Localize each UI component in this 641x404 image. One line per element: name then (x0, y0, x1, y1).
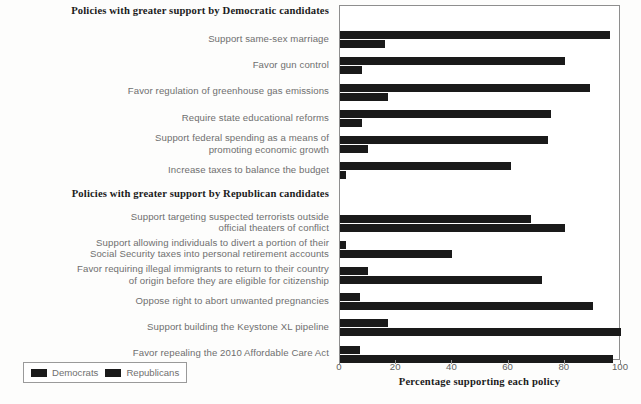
category-label-line: official theaters of conflict (9, 222, 329, 234)
category-label: Favor gun control (9, 59, 329, 71)
bars-container (340, 6, 619, 359)
category-label: Favor regulation of greenhouse gas emiss… (9, 85, 329, 97)
chart-legend: Democrats Republicans (23, 362, 187, 383)
x-axis-tick-label: 40 (431, 361, 471, 372)
category-label-line: Favor repealing the 2010 Affordable Care… (9, 347, 329, 359)
category-label-line: promoting economic growth (9, 144, 329, 156)
bar-republicans (340, 171, 346, 179)
x-axis-tick-label: 60 (488, 361, 528, 372)
bar-republicans (340, 250, 452, 258)
category-label: Support targeting suspected terrorists o… (9, 211, 329, 234)
category-label-line: Support allowing individuals to divert a… (9, 237, 329, 249)
legend-label-republicans: Republicans (126, 367, 179, 378)
bar-democrats (340, 162, 511, 170)
x-axis-tick-label: 80 (544, 361, 584, 372)
plot-area (339, 5, 620, 360)
x-axis-title: Percentage supporting each policy (339, 376, 620, 387)
bar-republicans (340, 302, 593, 310)
bar-democrats (340, 215, 531, 223)
x-axis-tick-label: 100 (600, 361, 640, 372)
bar-republicans (340, 328, 621, 336)
category-label-line: Favor gun control (9, 59, 329, 71)
x-axis-tick-label: 0 (319, 361, 359, 372)
legend-label-democrats: Democrats (52, 367, 98, 378)
category-label-line: Support building the Keystone XL pipelin… (9, 321, 329, 333)
section-header: Policies with greater support by Republi… (0, 188, 329, 200)
category-label-line: Support same-sex marriage (9, 33, 329, 45)
category-label-line: Oppose right to abort unwanted pregnanci… (9, 295, 329, 307)
bar-democrats (340, 31, 610, 39)
category-label: Require state educational reforms (9, 112, 329, 124)
category-label-line: Support targeting suspected terrorists o… (9, 211, 329, 223)
category-label: Support allowing individuals to divert a… (9, 237, 329, 260)
bar-democrats (340, 84, 590, 92)
category-label-line: Social Security taxes into personal reti… (9, 248, 329, 260)
category-label-line: Support federal spending as a means of (9, 132, 329, 144)
bar-republicans (340, 66, 362, 74)
bar-democrats (340, 110, 551, 118)
bar-chart-figure: Policies with greater support by Democra… (0, 0, 641, 404)
category-label: Support building the Keystone XL pipelin… (9, 321, 329, 333)
bar-democrats (340, 346, 360, 354)
category-label-line: of origin before they are eligible for c… (9, 275, 329, 287)
category-label: Support same-sex marriage (9, 33, 329, 45)
bar-republicans (340, 145, 368, 153)
section-header: Policies with greater support by Democra… (0, 5, 329, 17)
legend-item-republicans: Republicans (105, 367, 179, 378)
category-label: Oppose right to abort unwanted pregnanci… (9, 295, 329, 307)
category-label: Favor requiring illegal immigrants to re… (9, 263, 329, 286)
bar-republicans (340, 93, 388, 101)
category-label-line: Require state educational reforms (9, 112, 329, 124)
bar-democrats (340, 57, 565, 65)
bar-republicans (340, 276, 542, 284)
bar-democrats (340, 319, 388, 327)
category-label: Support federal spending as a means ofpr… (9, 132, 329, 155)
bar-democrats (340, 293, 360, 301)
bar-democrats (340, 241, 346, 249)
x-axis-tick-label: 20 (375, 361, 415, 372)
category-label-line: Favor requiring illegal immigrants to re… (9, 263, 329, 275)
category-label-column: Policies with greater support by Democra… (0, 0, 334, 360)
bar-republicans (340, 119, 362, 127)
bar-republicans (340, 224, 565, 232)
category-label-line: Increase taxes to balance the budget (9, 164, 329, 176)
bar-republicans (340, 40, 385, 48)
bar-democrats (340, 136, 548, 144)
legend-swatch-republicans-icon (105, 369, 121, 377)
category-label: Favor repealing the 2010 Affordable Care… (9, 347, 329, 359)
category-label: Increase taxes to balance the budget (9, 164, 329, 176)
legend-swatch-democrats-icon (31, 369, 47, 377)
category-label-line: Favor regulation of greenhouse gas emiss… (9, 85, 329, 97)
bar-democrats (340, 267, 368, 275)
legend-item-democrats: Democrats (31, 367, 98, 378)
